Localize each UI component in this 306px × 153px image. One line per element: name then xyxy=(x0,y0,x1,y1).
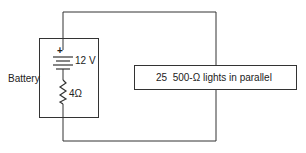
resistance-label: 4Ω xyxy=(69,88,83,99)
bottom-wire xyxy=(63,89,216,141)
battery-label: Battery xyxy=(8,73,40,84)
circuit-diagram: + 12 V 4Ω Battery 25 500-Ω lights in par… xyxy=(0,0,306,153)
emf-label: 12 V xyxy=(75,55,96,66)
plus-sign: + xyxy=(57,45,63,56)
load-label: 25 500-Ω lights in parallel xyxy=(156,72,272,83)
battery-enclosure xyxy=(40,39,99,118)
resistor-icon xyxy=(60,80,66,104)
